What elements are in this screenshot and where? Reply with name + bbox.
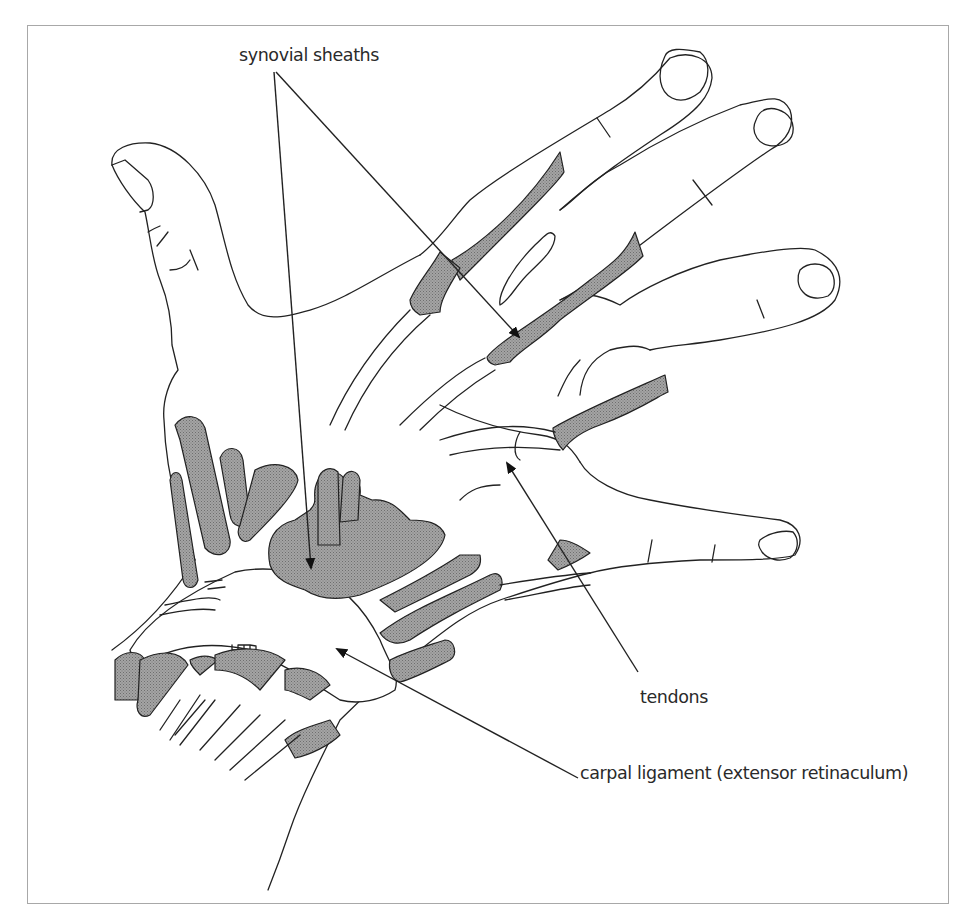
label-carpal-ligament: carpal ligament (extensor retinaculum) [580, 765, 908, 783]
carpal-ligament-arrow [337, 649, 578, 778]
hand-illustration [0, 0, 967, 923]
label-tendons: tendons [640, 689, 708, 707]
synovial-sheaths-arrow-2 [276, 72, 519, 337]
synovial-sheaths [115, 152, 668, 758]
label-synovial-sheaths: synovial sheaths [239, 47, 379, 65]
